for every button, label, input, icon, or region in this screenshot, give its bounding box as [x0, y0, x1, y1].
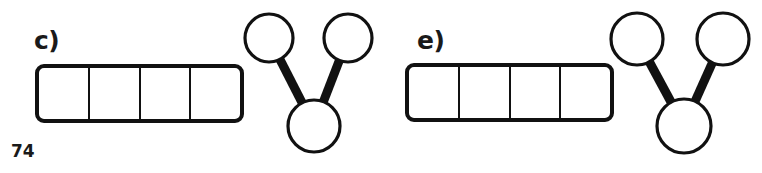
segmented-bar-e	[405, 63, 614, 122]
segmented-bar-c	[35, 64, 244, 123]
tree-node-right-top	[697, 13, 749, 65]
tree-edge-right	[684, 39, 723, 126]
figure-group-e: e)	[381, 0, 762, 173]
tree-node-left-top	[245, 14, 293, 62]
tree-edge-left	[637, 39, 684, 126]
page-number: 74	[11, 143, 35, 160]
bar-cell	[561, 67, 610, 118]
figure-canvas: c) 74 e)	[0, 0, 762, 173]
tree-edge-left	[269, 38, 314, 126]
bar-cell	[191, 68, 240, 119]
figure-group-c: c) 74	[0, 0, 385, 173]
part-label-c: c)	[34, 28, 59, 53]
tree-node-bottom	[288, 100, 340, 152]
bar-cell	[460, 67, 511, 118]
bar-cell	[511, 67, 562, 118]
bar-cell	[409, 67, 460, 118]
bar-cell	[39, 68, 90, 119]
tree-node-right-top	[324, 14, 372, 62]
bar-cell	[90, 68, 141, 119]
tree-edge-right	[314, 38, 348, 126]
bar-cell	[141, 68, 192, 119]
tree-node-left-top	[611, 13, 663, 65]
tree-node-bottom	[657, 99, 711, 153]
part-label-e: e)	[417, 28, 444, 53]
